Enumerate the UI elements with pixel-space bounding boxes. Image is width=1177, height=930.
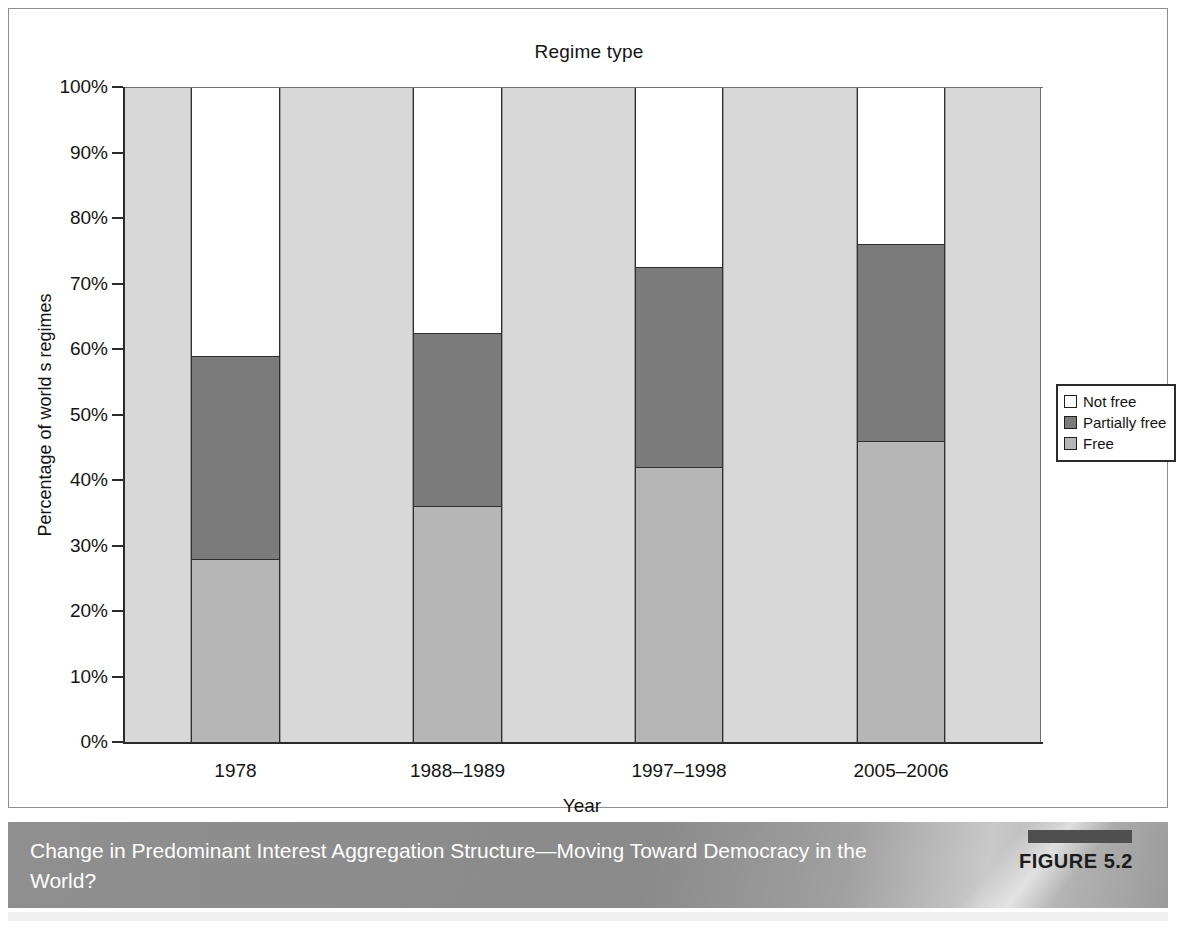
y-axis-tick bbox=[112, 479, 123, 481]
legend-item[interactable]: Free bbox=[1064, 433, 1166, 454]
legend-item-label: Partially free bbox=[1083, 414, 1166, 431]
x-axis-tick-label: 1997–1998 bbox=[631, 760, 726, 782]
chart-legend: Not freePartially freeFree bbox=[1056, 384, 1176, 462]
stacked-bar[interactable] bbox=[191, 87, 280, 742]
legend-swatch-not-free bbox=[1064, 395, 1077, 408]
bar-segment-partially-free[interactable] bbox=[635, 267, 723, 467]
figure-tag: FIGURE 5.2 bbox=[1000, 830, 1152, 873]
background-band bbox=[723, 87, 857, 742]
y-axis-tick bbox=[112, 741, 123, 743]
bar-segment-free[interactable] bbox=[413, 506, 502, 742]
y-axis-tick bbox=[112, 414, 123, 416]
bar-segment-free[interactable] bbox=[857, 441, 945, 742]
bar-segment-partially-free[interactable] bbox=[191, 356, 280, 559]
bar-segment-free[interactable] bbox=[635, 467, 723, 742]
chart-title: Regime type bbox=[9, 41, 1169, 63]
x-axis-tick-label: 2005–2006 bbox=[853, 760, 948, 782]
bar-segment-partially-free[interactable] bbox=[857, 244, 945, 441]
y-axis-tick bbox=[112, 283, 123, 285]
page-bottom-strip bbox=[8, 912, 1168, 921]
y-axis-tick bbox=[112, 217, 123, 219]
legend-item[interactable]: Not free bbox=[1064, 391, 1166, 412]
legend-item-label: Free bbox=[1083, 435, 1114, 452]
background-band bbox=[280, 87, 413, 742]
x-axis-tick-label: 1978 bbox=[214, 760, 256, 782]
y-axis-tick bbox=[112, 348, 123, 350]
y-axis-tick-label: 80% bbox=[28, 207, 108, 229]
x-axis-title: Year bbox=[123, 795, 1041, 817]
bar-segment-not-free[interactable] bbox=[413, 87, 502, 333]
y-axis-tick-label: 70% bbox=[28, 273, 108, 295]
legend-swatch-free bbox=[1064, 437, 1077, 450]
stacked-bar[interactable] bbox=[857, 87, 945, 742]
figure-root: Regime type 0%10%20%30%40%50%60%70%80%90… bbox=[0, 0, 1177, 930]
stacked-bar[interactable] bbox=[635, 87, 723, 742]
y-axis-tick-label: 90% bbox=[28, 142, 108, 164]
x-axis-tick-label: 1988–1989 bbox=[410, 760, 505, 782]
y-axis-tick-label: 30% bbox=[28, 535, 108, 557]
background-band bbox=[502, 87, 635, 742]
plot-area: 0%10%20%30%40%50%60%70%80%90%100% Percen… bbox=[123, 87, 1041, 742]
y-axis-tick bbox=[112, 676, 123, 678]
y-axis-tick bbox=[112, 86, 123, 88]
plot-right-border bbox=[1040, 87, 1041, 742]
y-axis-tick bbox=[112, 152, 123, 154]
stacked-bar[interactable] bbox=[413, 87, 502, 742]
bar-segment-not-free[interactable] bbox=[857, 87, 945, 244]
figure-tag-rule bbox=[1028, 830, 1132, 843]
bar-segment-not-free[interactable] bbox=[635, 87, 723, 267]
y-axis-tick bbox=[112, 545, 123, 547]
figure-caption-bar: Change in Predominant Interest Aggregati… bbox=[8, 822, 1168, 908]
figure-caption-text: Change in Predominant Interest Aggregati… bbox=[30, 836, 930, 896]
y-axis-tick-label: 20% bbox=[28, 600, 108, 622]
x-axis-line bbox=[123, 742, 1043, 744]
legend-item-label: Not free bbox=[1083, 393, 1136, 410]
bar-segment-free[interactable] bbox=[191, 559, 280, 742]
figure-tag-label: FIGURE 5.2 bbox=[1000, 850, 1152, 873]
y-axis-tick-label: 10% bbox=[28, 666, 108, 688]
y-axis-tick bbox=[112, 610, 123, 612]
bar-segment-not-free[interactable] bbox=[191, 87, 280, 356]
background-band bbox=[123, 87, 191, 742]
background-band bbox=[945, 87, 1041, 742]
plot-top-border bbox=[123, 87, 1043, 88]
legend-swatch-partially-free bbox=[1064, 416, 1077, 429]
legend-item[interactable]: Partially free bbox=[1064, 412, 1166, 433]
y-axis-tick-label: 100% bbox=[28, 76, 108, 98]
bar-segment-partially-free[interactable] bbox=[413, 333, 502, 507]
y-axis-line bbox=[123, 87, 125, 742]
chart-frame: Regime type 0%10%20%30%40%50%60%70%80%90… bbox=[8, 8, 1168, 808]
y-axis-title: Percentage of world s regimes bbox=[35, 293, 56, 536]
y-axis-tick-label: 0% bbox=[28, 731, 108, 753]
